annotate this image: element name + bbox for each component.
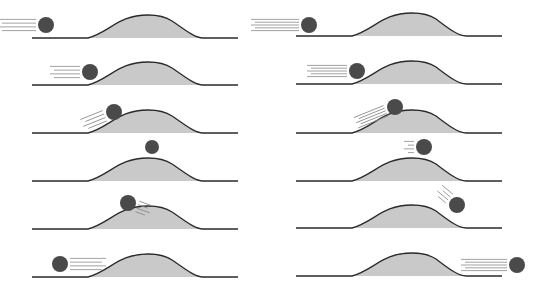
hill-fill xyxy=(352,110,466,133)
hill-fill xyxy=(88,158,203,181)
ball-icon xyxy=(82,64,98,80)
speed-lines-icon xyxy=(251,19,299,30)
speed-lines-icon xyxy=(404,141,414,152)
hill-fill xyxy=(352,205,466,228)
frame-6 xyxy=(32,254,238,277)
speed-lines-icon xyxy=(70,258,106,269)
ball-icon xyxy=(52,256,68,272)
speed-line xyxy=(80,111,102,120)
ball-icon xyxy=(301,17,317,33)
hill-fill xyxy=(88,15,203,38)
right-sequence xyxy=(251,13,525,276)
speed-line xyxy=(354,106,384,118)
speed-line xyxy=(85,114,104,121)
speed-line xyxy=(139,201,152,206)
hill-fill xyxy=(88,62,203,85)
hill-fill xyxy=(352,13,466,36)
ball-icon xyxy=(38,17,54,33)
speed-line xyxy=(437,191,448,200)
ball-icon xyxy=(416,139,432,155)
ball-icon xyxy=(106,104,122,120)
frame-2 xyxy=(296,61,502,84)
speed-lines-icon xyxy=(435,185,453,203)
hill-fill xyxy=(352,61,466,84)
frame-4 xyxy=(32,140,238,181)
hill-fill xyxy=(352,158,466,181)
frame-5 xyxy=(296,185,502,228)
speed-line xyxy=(83,117,105,126)
ball-icon xyxy=(145,140,159,154)
ball-hill-diagram xyxy=(0,0,540,290)
speed-lines-icon xyxy=(461,259,507,270)
speed-lines-icon xyxy=(50,66,80,77)
speed-line xyxy=(442,185,453,194)
ball-icon xyxy=(449,197,465,213)
ball-icon xyxy=(120,195,136,211)
ball-icon xyxy=(349,63,365,79)
frame-1 xyxy=(0,15,238,38)
frame-5 xyxy=(32,195,238,229)
hill-fill xyxy=(88,206,203,229)
ball-icon xyxy=(509,257,525,273)
frame-1 xyxy=(251,13,502,36)
frame-3 xyxy=(32,104,238,133)
frame-4 xyxy=(296,139,502,181)
speed-line xyxy=(359,108,385,118)
left-sequence xyxy=(0,15,238,277)
frame-6 xyxy=(296,253,525,276)
speed-lines-icon xyxy=(307,65,347,76)
speed-lines-icon xyxy=(0,19,36,30)
frame-2 xyxy=(32,62,238,85)
frame-3 xyxy=(296,99,502,133)
ball-icon xyxy=(387,99,403,115)
hill-fill xyxy=(352,253,466,276)
